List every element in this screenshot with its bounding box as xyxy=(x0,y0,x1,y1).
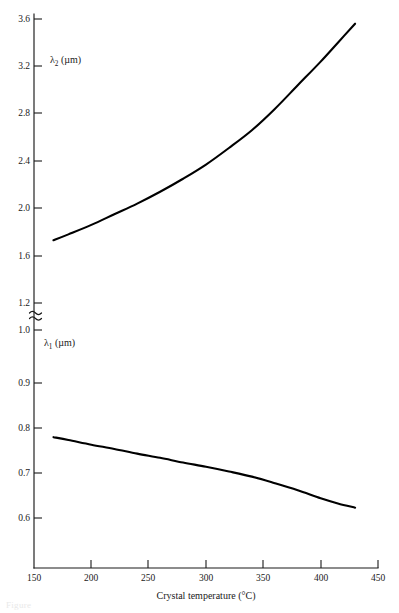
y-lower-tick-label-0.8: 0.8 xyxy=(18,423,30,433)
lambda2-curve xyxy=(53,24,355,241)
x-tick-label-150: 150 xyxy=(27,573,42,583)
y-upper-ticks xyxy=(34,19,42,303)
lambda1-series-label: λ1 (µm) xyxy=(44,337,75,351)
y-lower-tick-label-0.7: 0.7 xyxy=(18,468,30,478)
y-lower-ticks xyxy=(34,330,42,518)
y-lower-tick-label-0.9: 0.9 xyxy=(18,378,30,388)
lambda1-label-text: λ1 (µm) xyxy=(44,337,75,351)
axis-break-marker xyxy=(30,311,42,320)
lambda2-series-label: λ2 (µm) xyxy=(50,54,81,68)
lambda2-label-text: λ2 (µm) xyxy=(50,54,81,68)
x-tick-label-400: 400 xyxy=(314,573,329,583)
lambda1-curve xyxy=(53,437,355,508)
y-upper-tick-label-1.6: 1.6 xyxy=(18,251,30,261)
figure-container: 3.6 3.2 2.8 2.4 2.0 1.6 1.2 1.0 0.9 0.8 … xyxy=(0,0,399,613)
wavelength-vs-crystal-temperature-chart: 3.6 3.2 2.8 2.4 2.0 1.6 1.2 1.0 0.9 0.8 … xyxy=(0,0,399,613)
y-upper-tick-label-1.2: 1.2 xyxy=(18,298,30,308)
lambda2-unit: (µm) xyxy=(61,54,81,66)
x-tick-label-350: 350 xyxy=(256,573,271,583)
figure-caption-fragment: Figure xyxy=(6,600,31,610)
x-tick-labels: 150 200 250 300 350 400 450 xyxy=(27,573,386,583)
y-upper-tick-label-3.6: 3.6 xyxy=(18,14,30,24)
lambda1-unit: (µm) xyxy=(55,337,75,349)
y-upper-tick-label-2.8: 2.8 xyxy=(18,108,30,118)
x-axis-title: Crystal temperature (°C) xyxy=(157,590,256,602)
x-tick-label-450: 450 xyxy=(371,573,386,583)
y-lower-tick-labels: 1.0 0.9 0.8 0.7 0.6 xyxy=(18,325,30,523)
x-tick-label-200: 200 xyxy=(84,573,99,583)
y-upper-tick-label-3.2: 3.2 xyxy=(18,61,30,71)
axis-lines xyxy=(34,14,378,568)
y-upper-tick-labels: 3.6 3.2 2.8 2.4 2.0 1.6 1.2 xyxy=(18,14,30,308)
y-lower-tick-label-0.6: 0.6 xyxy=(18,513,30,523)
y-upper-tick-label-2.4: 2.4 xyxy=(18,156,30,166)
x-tick-label-250: 250 xyxy=(141,573,156,583)
y-lower-tick-label-1.0: 1.0 xyxy=(18,325,30,335)
x-ticks xyxy=(91,560,378,568)
x-tick-label-300: 300 xyxy=(199,573,214,583)
y-upper-tick-label-2.0: 2.0 xyxy=(18,203,30,213)
